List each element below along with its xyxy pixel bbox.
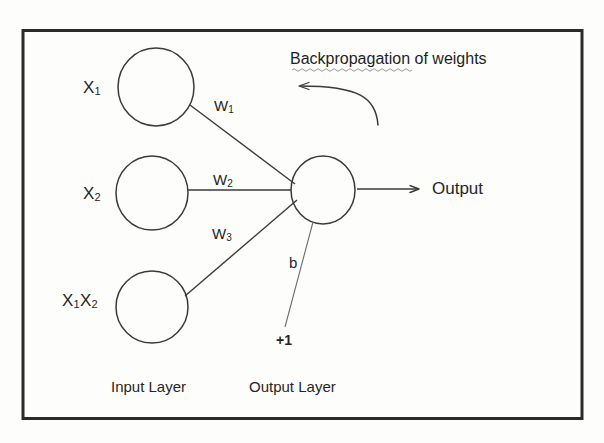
- backpropagation-arrow: [300, 86, 378, 125]
- bias-source-label: +1: [276, 333, 292, 347]
- input-node-x1-circle: [118, 48, 194, 126]
- weight-label-w1: W1: [214, 98, 234, 115]
- input-node-x2-label: X2: [83, 185, 101, 203]
- bias-label: b: [289, 255, 297, 270]
- input-node-x1-label: X1: [83, 79, 101, 97]
- connection-bias: [285, 222, 313, 327]
- connection-w3: [185, 200, 297, 296]
- input-node-x1x2-circle: [116, 271, 188, 343]
- output-label: Output: [432, 180, 483, 197]
- backpropagation-annotation: Backpropagation of weights: [290, 51, 487, 67]
- input-layer-caption: Input Layer: [111, 379, 186, 394]
- output-layer-caption: Output Layer: [249, 379, 336, 394]
- diagram-border: [23, 31, 582, 419]
- weight-label-w2: W2: [213, 172, 233, 189]
- diagram-canvas: X1 X2 X1X2 W1 W2 W3 b +1 Output Backprop…: [0, 0, 604, 443]
- spellcheck-underline: [292, 69, 412, 72]
- output-node-circle: [291, 156, 355, 224]
- connection-w1: [190, 105, 295, 184]
- weight-label-w3: W3: [212, 226, 232, 243]
- input-node-x2-circle: [116, 156, 188, 230]
- input-node-x1x2-label: X1X2: [62, 292, 98, 310]
